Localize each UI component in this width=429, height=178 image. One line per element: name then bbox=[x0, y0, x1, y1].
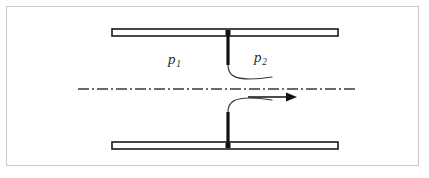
label-upstream-pressure: p1 bbox=[168, 52, 181, 67]
label-p1-subscript: 1 bbox=[176, 59, 181, 69]
flow-arrow-head bbox=[286, 93, 297, 102]
pipe-wall-bottom bbox=[112, 142, 338, 149]
label-p2-symbol: p bbox=[254, 49, 262, 65]
label-downstream-pressure: p2 bbox=[254, 50, 267, 65]
label-p1-symbol: p bbox=[168, 51, 176, 67]
streamline-lower bbox=[228, 98, 272, 112]
diagram-canvas bbox=[0, 0, 429, 178]
pipe-wall-top bbox=[112, 29, 338, 36]
plate-wall-junction-top bbox=[226, 30, 231, 35]
plate-wall-junction-bottom bbox=[226, 143, 231, 148]
label-p2-subscript: 2 bbox=[262, 57, 267, 67]
streamline-upper bbox=[228, 65, 272, 79]
orifice-plate-flow-figure: p1 p2 bbox=[0, 0, 429, 178]
